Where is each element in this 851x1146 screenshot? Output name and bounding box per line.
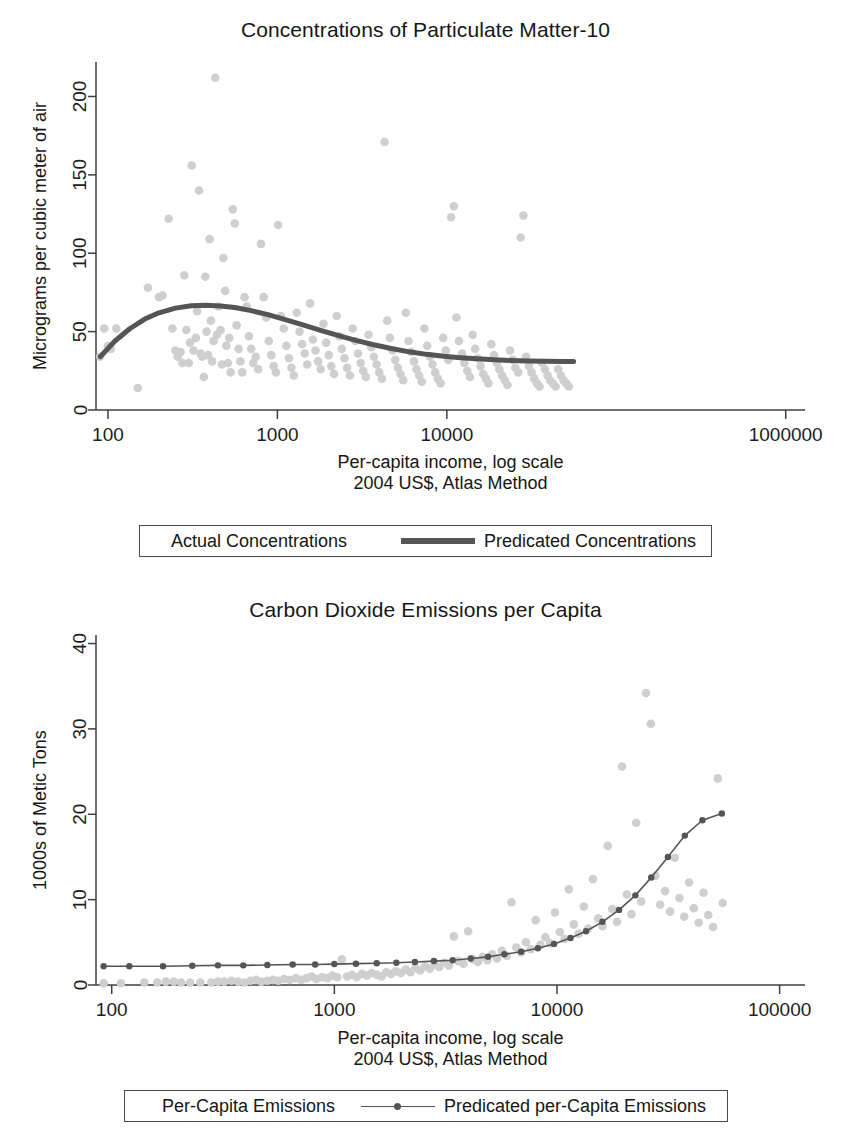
series-scatter	[96, 73, 573, 392]
x-axis-title-line1: Per-capita income, log scale	[96, 1028, 805, 1049]
legend-top: Actual Concentrations Predicated Concent…	[139, 525, 712, 557]
y-tick-label: 20	[70, 804, 91, 825]
x-tick-label: 1000000	[749, 424, 823, 445]
y-tick-label: 0	[70, 405, 91, 416]
y-tick-label: 50	[70, 321, 91, 342]
panel-co2-emissions: Carbon Dioxide Emissions per Capita 0102…	[0, 573, 851, 1146]
x-tick-label: 100000	[748, 999, 811, 1020]
x-axis-title-line1: Per-capita income, log scale	[96, 452, 805, 473]
x-axis-title-bottom: Per-capita income, log scale 2004 US$, A…	[96, 1028, 805, 1070]
scatter-marker-icon	[155, 538, 162, 545]
x-tick-label: 100	[92, 424, 124, 445]
legend-entry-per-capita-emissions: Per-Capita Emissions	[146, 1096, 335, 1117]
y-tick-label: 200	[70, 81, 91, 113]
panel-particulate-matter: Concentrations of Particulate Matter-10 …	[0, 0, 851, 573]
y-tick-label: 150	[70, 159, 91, 191]
series-line-markers	[100, 810, 725, 969]
x-axis-title-line2: 2004 US$, Atlas Method	[96, 473, 805, 494]
x-tick-label: 1000	[256, 424, 298, 445]
y-tick-label: 40	[70, 633, 91, 654]
x-tick-label: 10000	[531, 999, 584, 1020]
line-dot-marker-icon	[361, 1103, 435, 1110]
thick-line-marker-icon	[401, 538, 475, 544]
y-axis-title-bottom: 1000s of Metic Tons	[30, 730, 51, 890]
legend-label: Predicated Concentrations	[484, 531, 696, 552]
x-axis-title-line2: 2004 US$, Atlas Method	[96, 1049, 805, 1070]
legend-label: Predicated per-Capita Emissions	[444, 1096, 706, 1117]
plot-area-bottom: 010203040100100010000100000	[0, 573, 851, 1043]
x-tick-label: 1000	[313, 999, 355, 1020]
scatter-marker-icon	[146, 1103, 153, 1110]
x-axis-title-top: Per-capita income, log scale 2004 US$, A…	[96, 452, 805, 494]
series-scatter	[99, 689, 727, 988]
plot-area-top: 0501001502001001000100001000000	[0, 0, 851, 470]
figure-page: Concentrations of Particulate Matter-10 …	[0, 0, 851, 1146]
y-tick-label: 30	[70, 718, 91, 739]
legend-entry-predicated-concentrations: Predicated Concentrations	[401, 531, 696, 552]
legend-label: Actual Concentrations	[171, 531, 347, 552]
legend-entry-predicated-per-capita-emissions: Predicated per-Capita Emissions	[361, 1096, 706, 1117]
y-tick-label: 100	[70, 237, 91, 269]
y-tick-label: 0	[70, 980, 91, 991]
legend-bottom: Per-Capita Emissions Predicated per-Capi…	[124, 1090, 728, 1122]
legend-label: Per-Capita Emissions	[162, 1096, 335, 1117]
x-tick-label: 100	[96, 999, 128, 1020]
y-axis-title-top: Micrograms per cubic meter of air	[30, 102, 51, 370]
y-tick-label: 10	[70, 889, 91, 910]
x-tick-label: 10000	[420, 424, 473, 445]
legend-entry-actual-concentrations: Actual Concentrations	[155, 531, 347, 552]
